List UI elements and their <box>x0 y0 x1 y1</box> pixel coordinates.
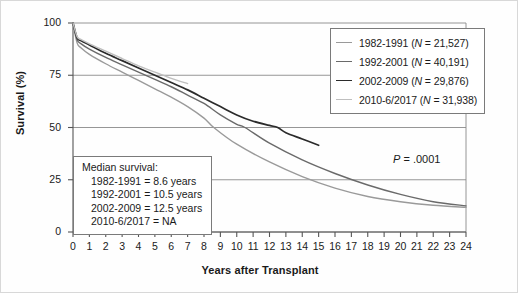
pvalue-value: = .0001 <box>400 153 440 165</box>
median-box-lines: 1982-1991 = 8.6 years1992-2001 = 10.5 ye… <box>82 175 202 229</box>
median-line-1: 1992-2001 = 10.5 years <box>82 188 202 202</box>
legend-line-icon <box>336 61 352 62</box>
legend-item-label: 1992-2001 (N = 40,191) <box>359 56 469 68</box>
legend-item-3: 2010-6/2017 (N = 31,938) <box>336 90 477 109</box>
median-line-2: 2002-2009 = 12.5 years <box>82 202 202 216</box>
x-tick-label-24: 24 <box>456 240 476 252</box>
y-tick-label-100: 100 <box>31 16 61 28</box>
median-survival-box: Median survival: 1982-1991 = 8.6 years19… <box>73 156 212 235</box>
y-axis-title: Survival (%) <box>14 48 26 158</box>
x-axis-title: Years after Transplant <box>1 264 518 276</box>
legend-line-icon <box>336 99 352 100</box>
legend-item-label: 2010-6/2017 (N = 31,938) <box>359 94 477 106</box>
curve-2002-2009 <box>73 23 319 145</box>
legend-item-0: 1982-1991 (N = 21,527) <box>336 33 477 52</box>
y-tick-label-0: 0 <box>31 225 61 237</box>
legend-item-label: 1982-1991 (N = 21,527) <box>359 37 469 49</box>
legend-line-icon <box>336 80 352 81</box>
median-box-title: Median survival: <box>82 161 202 175</box>
chart-legend: 1982-1991 (N = 21,527)1992-2001 (N = 40,… <box>330 28 485 114</box>
legend-line-icon <box>336 42 352 43</box>
pvalue-annotation: P = .0001 <box>393 153 440 165</box>
legend-item-1: 1992-2001 (N = 40,191) <box>336 52 477 71</box>
median-line-3: 2010-6/2017 = NA <box>82 215 202 229</box>
legend-item-label: 2002-2009 (N = 29,876) <box>359 75 469 87</box>
survival-chart-figure: Survival (%) Years after Transplant 1007… <box>0 0 518 293</box>
y-tick-label-50: 50 <box>31 121 61 133</box>
legend-item-2: 2002-2009 (N = 29,876) <box>336 71 477 90</box>
y-tick-label-25: 25 <box>31 173 61 185</box>
median-line-0: 1982-1991 = 8.6 years <box>82 175 202 189</box>
curve-2010-6-2017 <box>73 23 188 84</box>
y-tick-label-75: 75 <box>31 68 61 80</box>
